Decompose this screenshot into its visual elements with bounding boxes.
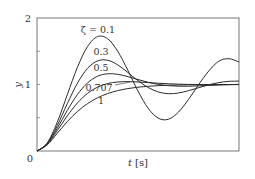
curve-label-1: 1	[98, 95, 104, 106]
y-axis-label: y	[12, 82, 23, 89]
x-axis-label: t[s]	[128, 157, 148, 168]
curve-label-0.707: 0.707	[85, 82, 112, 93]
ytick-label-2: 2	[25, 13, 31, 24]
curve-zeta-0.3	[37, 60, 239, 151]
curve-label-0.3: 0.3	[93, 46, 108, 57]
y-ticks	[37, 51, 40, 118]
x-axis-label-unit: [s]	[135, 157, 148, 168]
x-axis-label-var: t	[128, 157, 133, 168]
curve-label-zeta-0.1: ζ = 0.1	[81, 24, 115, 35]
curve-zeta-0.5	[37, 74, 239, 151]
curve-label-0.5: 0.5	[93, 62, 108, 73]
ytick-label-0: 0	[27, 153, 33, 164]
curve-zeta-0.1	[37, 36, 239, 151]
ytick-label-1: 1	[25, 79, 31, 90]
step-response-chart: 2 1 0 y t[s] ζ = 0.1 0.3 0.5 0.707 1	[0, 0, 255, 179]
curves	[37, 36, 239, 151]
